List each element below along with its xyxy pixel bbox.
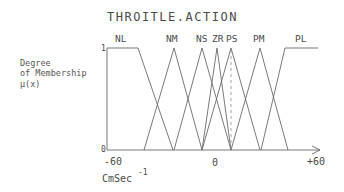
x-tick-max: +60 [307, 156, 325, 167]
y-axis-label-line2: of Membership [20, 68, 87, 78]
mf-NL [107, 48, 173, 150]
y-axis-label-line3: μ(x) [20, 79, 40, 89]
mf-NM [144, 48, 202, 150]
label-PL: PL [295, 33, 307, 44]
chart-title: THROITLE.ACTION [107, 10, 238, 24]
y-tick-0: 0 [101, 145, 106, 154]
label-PS: PS [226, 33, 238, 44]
x-tick-zero: 0 [212, 157, 218, 168]
x-axis-unit: CmSec [102, 173, 132, 184]
label-ZR: ZR [212, 33, 224, 44]
label-NL: NL [115, 33, 127, 44]
mf-PM [231, 48, 288, 150]
x-tick-min: -60 [104, 156, 122, 167]
label-PM: PM [253, 33, 265, 44]
label-NM: NM [166, 33, 178, 44]
y-tick-1: 1 [101, 44, 106, 53]
mf-NS [174, 48, 231, 150]
label-NS: NS [196, 33, 208, 44]
y-axis-label-line1: Degree [20, 58, 51, 68]
membership-function-chart: THROITLE.ACTION Degree of Membership μ(x… [0, 0, 344, 192]
mf-PL [261, 48, 318, 150]
x-axis-unit-superscript: -1 [138, 168, 148, 177]
